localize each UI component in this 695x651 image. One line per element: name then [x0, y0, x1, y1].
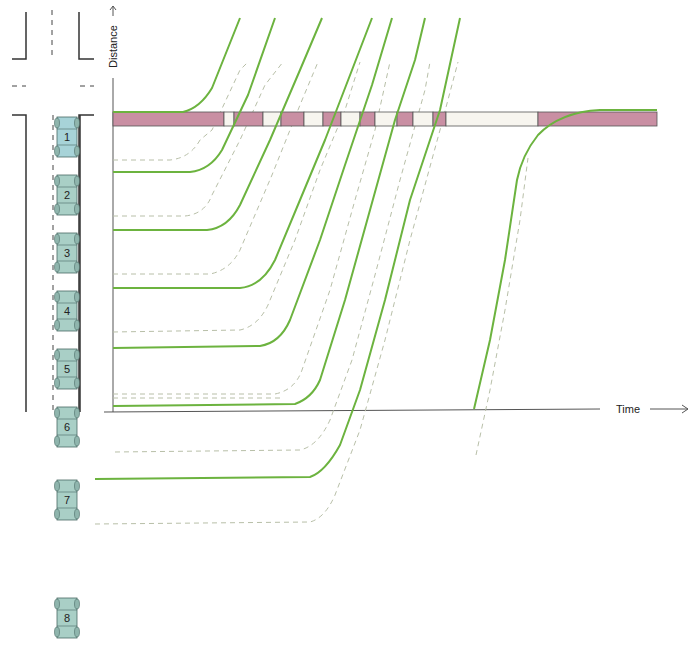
road-edge-top-left: [12, 12, 26, 59]
wheel-icon: [75, 436, 80, 446]
signal-segment-green: [413, 112, 433, 126]
vehicle-trajectory: [474, 110, 657, 409]
following-path: [113, 62, 318, 274]
wheel-icon: [55, 234, 60, 244]
wheel-icon: [75, 509, 80, 519]
wheel-icon: [55, 176, 60, 186]
car-number: 6: [64, 421, 70, 433]
car-2: 2: [55, 175, 80, 215]
wheel-icon: [55, 509, 60, 519]
wheel-icon: [75, 378, 80, 388]
car-4: 4: [55, 291, 80, 331]
lane-markings: [12, 10, 94, 410]
wheel-icon: [55, 146, 60, 156]
road-edge-bottom-right: [79, 115, 94, 412]
wheel-icon: [55, 599, 60, 609]
signal-segment-red: [397, 112, 413, 126]
distance-arrow-icon: [110, 6, 116, 16]
wheel-icon: [75, 234, 80, 244]
car-7: 7: [55, 480, 80, 520]
wheel-icon: [55, 436, 60, 446]
axes: Time Distance: [104, 6, 688, 415]
time-axis-label: Time: [616, 403, 640, 415]
wheel-icon: [55, 627, 60, 637]
traffic-signal-time-distance-diagram: 12345678 Time Distance: [0, 0, 695, 651]
car-number: 1: [64, 131, 70, 143]
vehicle-trajectory: [113, 18, 240, 112]
vehicle-trajectory: [113, 18, 392, 348]
wheel-icon: [55, 262, 60, 272]
car-3: 3: [55, 233, 80, 273]
car-number: 2: [64, 189, 70, 201]
following-path: [113, 62, 283, 216]
following-path: [113, 62, 360, 332]
vehicle-trajectory: [113, 18, 372, 288]
following-path: [476, 158, 528, 455]
wheel-icon: [75, 146, 80, 156]
wheel-icon: [75, 481, 80, 491]
signal-segment-red: [281, 112, 304, 126]
car-5: 5: [55, 349, 80, 389]
wheel-icon: [75, 408, 80, 418]
car-number: 4: [64, 305, 70, 317]
wheel-icon: [55, 350, 60, 360]
wheel-icon: [75, 292, 80, 302]
distance-axis-label: Distance: [107, 25, 119, 68]
car-number: 7: [64, 494, 70, 506]
signal-segment-green: [224, 112, 234, 126]
wheel-icon: [75, 204, 80, 214]
wheel-icon: [55, 408, 60, 418]
signal-segment-green: [341, 112, 360, 126]
wheel-icon: [55, 292, 60, 302]
wheel-icon: [75, 320, 80, 330]
signal-segment-red: [538, 112, 657, 126]
queued-cars: 12345678: [55, 117, 80, 638]
wheel-icon: [75, 350, 80, 360]
following-vehicle-paths: [95, 62, 528, 524]
wheel-icon: [75, 599, 80, 609]
car-number: 3: [64, 247, 70, 259]
signal-segment-green: [304, 112, 323, 126]
wheel-icon: [75, 118, 80, 128]
car-number: 8: [64, 612, 70, 624]
car-8: 8: [55, 598, 80, 638]
road-edge-bottom-left: [12, 115, 26, 412]
car-1: 1: [55, 117, 80, 157]
wheel-icon: [55, 118, 60, 128]
car-number: 5: [64, 363, 70, 375]
following-path: [95, 62, 458, 524]
wheel-icon: [75, 262, 80, 272]
car-6: 6: [55, 407, 80, 447]
signal-segment-red: [113, 112, 224, 126]
intersection-road: [12, 12, 94, 412]
wheel-icon: [75, 176, 80, 186]
signal-segment-green: [446, 112, 538, 126]
road-edge-top-right: [79, 12, 94, 59]
wheel-icon: [55, 204, 60, 214]
wheel-icon: [75, 627, 80, 637]
vehicle-trajectories: [95, 18, 657, 479]
wheel-icon: [55, 378, 60, 388]
wheel-icon: [55, 320, 60, 330]
wheel-icon: [55, 481, 60, 491]
